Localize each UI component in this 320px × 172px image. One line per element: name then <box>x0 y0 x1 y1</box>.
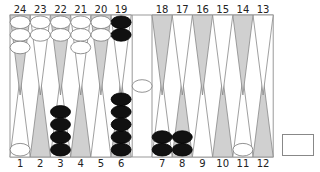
white-checker-point-22[interactable] <box>51 29 71 42</box>
white-checker-point-20[interactable] <box>91 16 111 29</box>
doubling-cube[interactable] <box>282 134 314 156</box>
white-checker-point-24[interactable] <box>10 16 30 29</box>
black-checker-point-3[interactable] <box>51 131 71 144</box>
white-checker-point-21[interactable] <box>71 16 91 29</box>
black-checker-point-7[interactable] <box>152 131 172 144</box>
black-checker-point-6[interactable] <box>111 93 131 106</box>
white-checker-point-24[interactable] <box>10 29 30 42</box>
black-checker-point-8[interactable] <box>172 131 192 144</box>
white-checker-point-21[interactable] <box>71 41 91 54</box>
black-checker-point-6[interactable] <box>111 118 131 131</box>
white-checker-bar[interactable] <box>132 80 152 93</box>
black-checker-point-19[interactable] <box>111 16 131 29</box>
black-checker-point-7[interactable] <box>152 143 172 156</box>
black-checker-point-3[interactable] <box>51 143 71 156</box>
white-checker-point-24[interactable] <box>10 41 30 54</box>
white-checker-point-21[interactable] <box>71 29 91 42</box>
white-checker-point-22[interactable] <box>51 16 71 29</box>
backgammon-board[interactable] <box>0 0 320 172</box>
white-checker-point-23[interactable] <box>30 16 50 29</box>
black-checker-point-6[interactable] <box>111 143 131 156</box>
black-checker-point-3[interactable] <box>51 118 71 131</box>
black-checker-point-19[interactable] <box>111 29 131 42</box>
white-checker-point-1[interactable] <box>10 143 30 156</box>
black-checker-point-3[interactable] <box>51 106 71 119</box>
white-checker-point-20[interactable] <box>91 29 111 42</box>
black-checker-point-6[interactable] <box>111 106 131 119</box>
white-checker-point-11[interactable] <box>233 143 253 156</box>
white-checker-point-23[interactable] <box>30 29 50 42</box>
black-checker-point-6[interactable] <box>111 131 131 144</box>
black-checker-point-8[interactable] <box>172 143 192 156</box>
